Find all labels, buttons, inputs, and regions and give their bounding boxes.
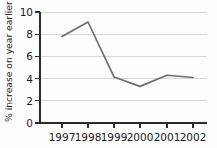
x-tick-labels: 1997 1998 1999 2000 2001 2002 [49, 131, 207, 143]
x-label-1997: 1997 [49, 131, 76, 143]
x-label-2002: 2002 [180, 131, 207, 143]
y-label-8: 8 [26, 28, 33, 40]
x-label-2001: 2001 [154, 131, 181, 143]
x-label-1999: 1999 [101, 131, 128, 143]
y-axis-title: % increase on year earlier [3, 1, 14, 122]
x-label-2000: 2000 [127, 131, 154, 143]
y-label-0: 0 [26, 117, 33, 129]
line-chart: 10 8 6 4 2 0 1997 1998 1999 2000 2001 20… [0, 0, 217, 148]
y-label-6: 6 [26, 50, 33, 62]
x-label-1998: 1998 [75, 131, 102, 143]
y-label-4: 4 [26, 73, 33, 85]
chart-canvas: 10 8 6 4 2 0 1997 1998 1999 2000 2001 20… [0, 0, 217, 148]
y-label-2: 2 [26, 95, 33, 107]
y-label-10: 10 [20, 6, 33, 18]
